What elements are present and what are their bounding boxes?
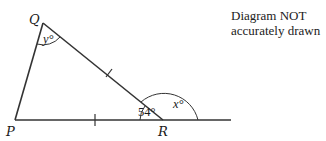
vertex-label-R: R [157, 124, 168, 139]
angle-label-54: 54° [138, 105, 156, 119]
vertex-label-Q: Q [29, 12, 40, 27]
not-to-scale-note: Diagram NOT accurately drawn [231, 8, 320, 38]
angle-label-x: x° [172, 97, 184, 111]
note-line-1: Diagram NOT [231, 8, 320, 23]
angle-label-y: y° [41, 32, 54, 46]
vertex-label-P: P [5, 124, 15, 139]
note-line-2: accurately drawn [231, 23, 320, 38]
side-PQ [15, 23, 43, 120]
